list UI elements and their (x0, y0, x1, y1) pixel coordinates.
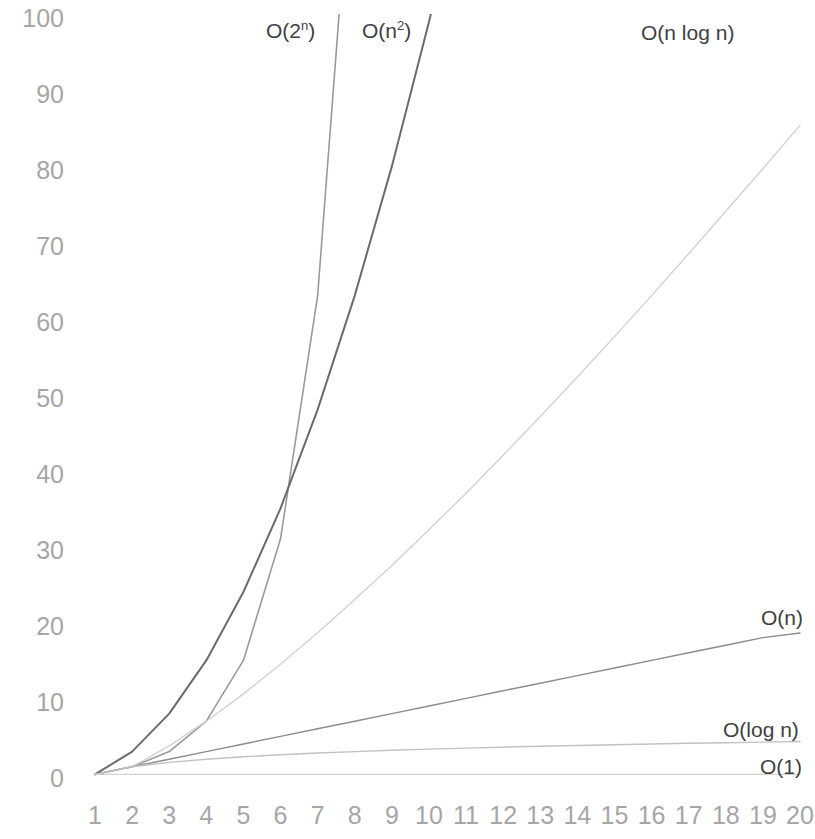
plot-area (0, 0, 815, 839)
y-tick-50: 50 (0, 386, 64, 411)
x-tick-18: 18 (706, 803, 746, 828)
x-tick-11: 11 (446, 803, 486, 828)
x-tick-19: 19 (743, 803, 783, 828)
series-label-o-n-log-n: O(n log n) (641, 22, 734, 43)
series-line-o-n-log-n- (95, 125, 800, 774)
y-tick-0: 0 (0, 766, 64, 791)
x-tick-14: 14 (557, 803, 597, 828)
x-tick-13: 13 (520, 803, 560, 828)
y-tick-60: 60 (0, 310, 64, 335)
series-label-o-n-2: O(n2) (362, 20, 411, 41)
y-tick-10: 10 (0, 690, 64, 715)
y-tick-30: 30 (0, 538, 64, 563)
x-tick-16: 16 (632, 803, 672, 828)
x-tick-10: 10 (409, 803, 449, 828)
series-label-o-n: O(n) (761, 607, 803, 628)
x-tick-6: 6 (261, 803, 301, 828)
x-tick-7: 7 (298, 803, 338, 828)
y-tick-20: 20 (0, 614, 64, 639)
x-tick-15: 15 (594, 803, 634, 828)
series-line-o-log-n- (95, 742, 800, 775)
x-tick-17: 17 (669, 803, 709, 828)
x-tick-9: 9 (372, 803, 412, 828)
y-tick-70: 70 (0, 234, 64, 259)
series-line-o-n-2- (95, 0, 540, 774)
big-o-complexity-chart: 100 90 80 70 60 50 40 30 20 10 0 1234567… (0, 0, 815, 839)
series-label-o-1: O(1) (760, 756, 802, 777)
x-tick-4: 4 (186, 803, 226, 828)
x-tick-12: 12 (483, 803, 523, 828)
series-line-o-n- (95, 633, 800, 774)
series-label-o-n-2-tail: ) (404, 19, 411, 42)
series-label-o-2-n-tail: ) (308, 19, 315, 42)
series-label-o-2-n-base: O(2 (266, 19, 301, 42)
x-tick-5: 5 (223, 803, 263, 828)
series-label-o-2-n: O(2n) (266, 20, 315, 41)
x-tick-20: 20 (780, 803, 815, 828)
y-tick-90: 90 (0, 82, 64, 107)
x-tick-1: 1 (75, 803, 115, 828)
y-tick-40: 40 (0, 462, 64, 487)
x-tick-8: 8 (335, 803, 375, 828)
series-label-o-n-2-base: O(n (362, 19, 397, 42)
x-tick-2: 2 (112, 803, 152, 828)
x-tick-3: 3 (149, 803, 189, 828)
series-line-o-2-n- (95, 0, 392, 774)
series-label-o-log-n: O(log n) (723, 719, 799, 740)
y-tick-100: 100 (0, 6, 64, 31)
y-tick-80: 80 (0, 158, 64, 183)
